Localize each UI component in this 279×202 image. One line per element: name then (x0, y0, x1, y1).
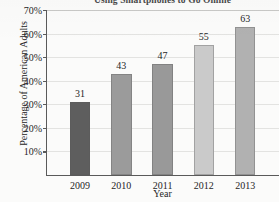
bar-value-label: 47 (158, 50, 168, 61)
bar-group: 472011 (152, 10, 173, 175)
bar[interactable] (111, 74, 132, 175)
y-axis-label: 60% (24, 28, 42, 39)
chart-title: Using Smartphones to Go Online (46, 0, 279, 5)
x-axis-title: Year (46, 188, 279, 199)
y-axis-label: 70% (24, 5, 42, 16)
bar-group: 312009 (70, 10, 91, 175)
bar-group: 552012 (194, 10, 215, 175)
y-axis-label: 20% (24, 122, 42, 133)
y-axis-label: 40% (24, 75, 42, 86)
bar-value-label: 55 (199, 31, 209, 42)
chart-screenshot: Using Smartphones to Go Online Percentag… (0, 0, 279, 202)
bar-group: 432010 (111, 10, 132, 175)
plot-area: 10%20%30%40%50%60%70% 312009432010472011… (46, 10, 279, 176)
y-axis-label: 50% (24, 52, 42, 63)
bar[interactable] (70, 102, 91, 175)
bar[interactable] (152, 64, 173, 175)
bar[interactable] (194, 45, 215, 175)
y-axis-label: 10% (24, 146, 42, 157)
bar-value-label: 43 (116, 60, 126, 71)
bar-series: 312009432010472011552012632013 (47, 10, 279, 175)
bar-value-label: 63 (240, 13, 250, 24)
bar-value-label: 31 (75, 88, 85, 99)
y-axis-label: 30% (24, 99, 42, 110)
bar-group: 632013 (235, 10, 256, 175)
bar[interactable] (235, 27, 256, 176)
